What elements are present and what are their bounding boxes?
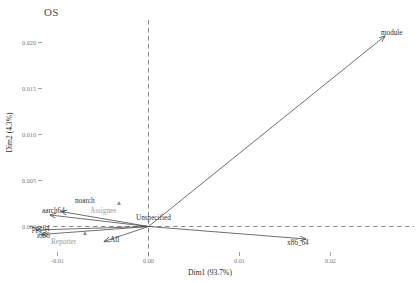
- triangle-icon-assignee: [117, 201, 121, 205]
- arrow-ppc64: [36, 227, 149, 231]
- point-label-assignee: Assignee: [90, 208, 116, 215]
- point-label-reporter: Reporter: [51, 239, 76, 246]
- y-axis-title: Dim2 (4.3%): [5, 98, 14, 168]
- point-label-i686: i686: [37, 233, 50, 240]
- variable-arrows: [36, 36, 385, 242]
- y-tick-label: 0.020: [4, 39, 36, 46]
- point-label-module: module: [381, 30, 403, 37]
- triangle-icon-reporter: [83, 231, 87, 235]
- x-tick-label: 0.00: [128, 257, 169, 264]
- arrow-aarch64: [50, 215, 149, 227]
- x-axis-ticks: [58, 252, 331, 256]
- point-label-all: All: [110, 237, 119, 244]
- arrow-x86-64: [149, 227, 307, 240]
- mca-biplot-chart: OS 0.020 0.015 0.010 0.005 0.000 -0.01 0…: [0, 0, 420, 283]
- x-tick-label: 0.01: [219, 257, 260, 264]
- point-label-noarch: noarch: [75, 198, 95, 205]
- reference-lines: [29, 20, 414, 258]
- y-tick-label: 0.005: [4, 177, 36, 184]
- x-tick-label: -0.01: [37, 257, 78, 264]
- y-axis-ticks: [38, 43, 42, 227]
- x-tick-label: 0.02: [310, 257, 351, 264]
- chart-title: OS: [44, 6, 59, 18]
- arrow-i686: [41, 227, 149, 235]
- arrow-module: [149, 36, 386, 227]
- x-axis-title: Dim1 (93.7%): [0, 268, 420, 277]
- y-tick-label: 0.015: [4, 85, 36, 92]
- point-label-x86-64: x86_64: [287, 240, 309, 247]
- point-label-aarch64: aarch64: [42, 208, 65, 215]
- point-label-unspecified: Unspecified: [136, 215, 171, 222]
